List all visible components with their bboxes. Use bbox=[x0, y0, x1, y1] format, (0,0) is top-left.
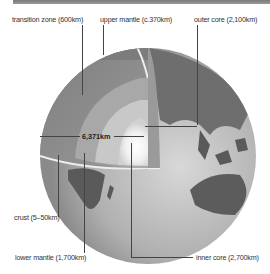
leader-inner-core-horizontal bbox=[131, 257, 193, 258]
leader-lower-mantle bbox=[84, 153, 85, 253]
earth-cutaway-illustration bbox=[0, 0, 270, 274]
leader-outer-core-horizontal bbox=[145, 126, 197, 127]
label-crust: crust (5–50km) bbox=[14, 213, 60, 222]
label-upper-mantle: upper mantle (c.370km) bbox=[100, 15, 172, 24]
label-lower-mantle: lower mantle (1,700km) bbox=[15, 253, 86, 262]
label-inner-core: inner core (2,700km) bbox=[196, 253, 259, 262]
label-outer-core: outer core (2,100km) bbox=[194, 15, 257, 24]
radius-line-right bbox=[114, 136, 144, 137]
leader-outer-core bbox=[197, 25, 198, 125]
leader-upper-mantle bbox=[103, 25, 104, 55]
leader-inner-core bbox=[131, 143, 132, 257]
radius-label: 6,371km bbox=[82, 132, 110, 141]
radius-line-left bbox=[40, 136, 80, 137]
leader-crust bbox=[58, 155, 59, 217]
label-transition-zone: transition zone (600km) bbox=[12, 15, 83, 24]
leader-transition-zone bbox=[82, 25, 83, 95]
